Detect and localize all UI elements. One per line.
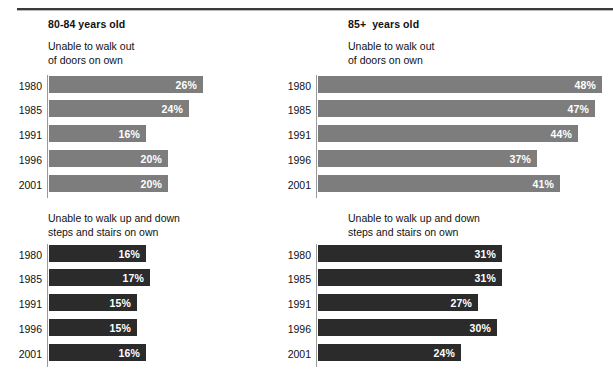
bar-value-label: 47%	[567, 103, 589, 115]
bar-value-label: 15%	[109, 297, 131, 309]
category-label: 1985	[269, 273, 311, 285]
bar[interactable]: 20%	[49, 175, 168, 192]
bar-value-label: 44%	[550, 128, 572, 140]
bar[interactable]: 31%	[318, 245, 502, 262]
chart-group-title: 85+ years old	[348, 18, 419, 30]
y-axis-line	[47, 75, 48, 198]
category-label: 2001	[0, 179, 42, 191]
bar[interactable]: 44%	[318, 125, 578, 142]
bar-value-label: 20%	[140, 153, 162, 165]
bar[interactable]: 24%	[318, 344, 461, 361]
bar-value-label: 16%	[118, 248, 140, 260]
bar[interactable]: 48%	[318, 76, 602, 93]
bar-value-label: 31%	[474, 248, 496, 260]
chart-group-title: 80-84 years old	[48, 18, 125, 30]
bar[interactable]: 37%	[318, 150, 537, 167]
bar[interactable]: 27%	[318, 294, 478, 311]
bar-value-label: 27%	[450, 297, 472, 309]
category-label: 1980	[0, 249, 42, 261]
header-divider	[17, 8, 613, 10]
category-label: 2001	[0, 348, 42, 360]
bar[interactable]: 20%	[49, 150, 168, 167]
bar-value-label: 17%	[122, 272, 144, 284]
chart-panel-bottom-left: Unable to walk up and down steps and sta…	[0, 206, 300, 376]
category-label: 1991	[269, 129, 311, 141]
bar-value-label: 15%	[109, 322, 131, 334]
chart-subtitle: Unable to walk up and down steps and sta…	[348, 211, 480, 239]
bar[interactable]: 16%	[49, 344, 146, 361]
bar-value-label: 30%	[469, 322, 491, 334]
category-label: 1985	[0, 104, 42, 116]
bar-value-label: 16%	[118, 347, 140, 359]
chart-subtitle: Unable to walk out of doors on own	[48, 39, 134, 67]
category-label: 1980	[0, 80, 42, 92]
bar[interactable]: 17%	[49, 269, 150, 286]
bar[interactable]: 15%	[49, 294, 137, 311]
bar[interactable]: 16%	[49, 125, 146, 142]
bar[interactable]: 26%	[49, 76, 203, 93]
category-label: 1996	[0, 154, 42, 166]
bar-value-label: 20%	[140, 178, 162, 190]
bar-value-label: 41%	[532, 178, 554, 190]
bar[interactable]: 16%	[49, 245, 146, 262]
bar-value-label: 48%	[574, 79, 596, 91]
category-label: 1980	[269, 249, 311, 261]
bar-value-label: 26%	[175, 79, 197, 91]
bar-value-label: 31%	[474, 272, 496, 284]
category-label: 1985	[269, 104, 311, 116]
chart-panel-bottom-right: Unable to walk up and down steps and sta…	[300, 206, 613, 376]
chart-panel-top-left: 80-84 years old Unable to walk out of do…	[0, 16, 300, 206]
category-label: 1991	[0, 298, 42, 310]
category-label: 1991	[269, 298, 311, 310]
category-label: 1980	[269, 80, 311, 92]
category-label: 1996	[269, 323, 311, 335]
y-axis-line	[47, 244, 48, 367]
bar-value-label: 24%	[433, 347, 455, 359]
category-label: 1996	[0, 323, 42, 335]
bar[interactable]: 30%	[318, 319, 497, 336]
figure-canvas: 80-84 years old Unable to walk out of do…	[0, 0, 613, 387]
y-axis-line	[316, 244, 317, 367]
bar[interactable]: 31%	[318, 269, 502, 286]
bar[interactable]: 41%	[318, 175, 560, 192]
category-label: 1985	[0, 273, 42, 285]
bar-value-label: 24%	[161, 103, 183, 115]
bar[interactable]: 15%	[49, 319, 137, 336]
category-label: 2001	[269, 348, 311, 360]
category-label: 1996	[269, 154, 311, 166]
bar[interactable]: 24%	[49, 100, 189, 117]
y-axis-line	[316, 75, 317, 198]
category-label: 1991	[0, 129, 42, 141]
bar-value-label: 37%	[509, 153, 531, 165]
chart-panel-top-right: 85+ years old Unable to walk out of door…	[300, 16, 613, 206]
chart-subtitle: Unable to walk up and down steps and sta…	[48, 211, 180, 239]
bar-value-label: 16%	[118, 128, 140, 140]
category-label: 2001	[269, 179, 311, 191]
bar[interactable]: 47%	[318, 100, 595, 117]
chart-subtitle: Unable to walk out of doors on own	[348, 39, 434, 67]
